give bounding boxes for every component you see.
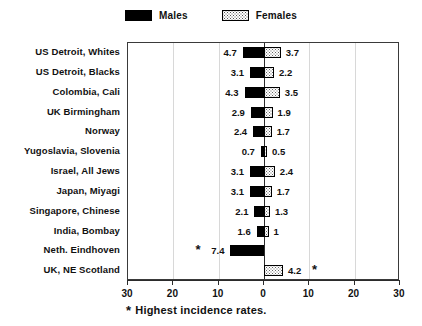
chart-row: 0.70.5 <box>128 142 398 162</box>
bar-males <box>243 47 264 58</box>
x-axis-tick <box>354 280 355 285</box>
chart-row: 4.73.7 <box>128 43 398 63</box>
bar-males <box>250 166 264 177</box>
males-swatch-icon <box>125 10 152 21</box>
bar-value-males: 3.1 <box>231 66 244 79</box>
chart-row: 1.61 <box>128 222 398 242</box>
chart-row: 3.11.7 <box>128 182 398 202</box>
bar-value-males: 4.7 <box>224 46 237 59</box>
chart-row: 2.11.3 <box>128 202 398 222</box>
bar-value-males: 0.7 <box>242 145 255 158</box>
legend-item-females: Females <box>222 10 297 21</box>
bar-value-females: 1.9 <box>278 106 291 119</box>
caption-star-icon: * <box>126 303 131 318</box>
category-label: Colombia, Cali <box>53 82 120 102</box>
category-label-column: US Detroit, WhitesUS Detroit, BlacksColo… <box>0 42 124 280</box>
bar-value-females: 2.4 <box>280 165 293 178</box>
x-axis-tick <box>399 280 400 285</box>
bar-females <box>264 265 283 276</box>
x-axis-tick <box>263 280 264 285</box>
category-label: India, Bombay <box>54 221 120 241</box>
bar-females <box>264 107 273 118</box>
highest-incidence-star-icon: * <box>195 243 200 256</box>
category-label: UK, NE Scotland <box>44 260 120 280</box>
bar-value-males: 4.3 <box>225 86 238 99</box>
legend-item-males: Males <box>125 10 188 21</box>
x-axis-tick <box>308 280 309 285</box>
x-axis-tick-label: 20 <box>159 288 185 299</box>
bar-females <box>264 186 272 197</box>
chart-row: 4.33.5 <box>128 83 398 103</box>
bar-females <box>264 126 272 137</box>
bar-females <box>264 206 270 217</box>
x-axis-tick-label: 20 <box>341 288 367 299</box>
chart-caption: *Highest incidence rates. <box>126 303 267 318</box>
bar-value-females: 4.2 <box>288 264 301 277</box>
bar-value-females: 1.7 <box>277 125 290 138</box>
bar-value-females: 2.2 <box>279 66 292 79</box>
caption-text: Highest incidence rates. <box>135 304 266 316</box>
bar-value-females: 1 <box>274 225 279 238</box>
x-axis-tick-label: 30 <box>386 288 412 299</box>
category-label: Israel, All Jews <box>51 161 120 181</box>
bar-value-males: 2.9 <box>232 106 245 119</box>
x-axis-tick <box>127 280 128 285</box>
bar-females <box>264 67 274 78</box>
x-axis-tick-label: 10 <box>295 288 321 299</box>
category-label: Singapore, Chinese <box>30 201 121 221</box>
bar-females <box>264 146 267 157</box>
chart-row: 4.2* <box>128 261 398 281</box>
bar-value-males: 7.4 <box>211 244 224 257</box>
bar-females <box>264 87 280 98</box>
bar-males <box>250 186 264 197</box>
chart-row: 3.12.2 <box>128 63 398 83</box>
chart-row: 3.12.4 <box>128 162 398 182</box>
bar-males <box>257 226 264 237</box>
chart-legend: Males Females <box>0 6 422 24</box>
bar-females <box>264 166 275 177</box>
bar-males <box>230 245 264 256</box>
category-label: Neth. Eindhoven <box>44 240 120 260</box>
bar-males <box>254 206 264 217</box>
bar-value-males: 2.4 <box>234 125 247 138</box>
bar-value-females: 3.5 <box>285 86 298 99</box>
bar-value-females: 1.3 <box>275 205 288 218</box>
category-label: Yugoslavia, Slovenia <box>24 141 120 161</box>
x-axis-tick-label: 30 <box>114 288 140 299</box>
category-label: US Detroit, Blacks <box>36 62 120 82</box>
bar-males <box>250 67 264 78</box>
chart-row: 2.91.9 <box>128 103 398 123</box>
x-axis-tick-label: 10 <box>205 288 231 299</box>
bar-males <box>251 107 264 118</box>
bar-value-males: 3.1 <box>231 165 244 178</box>
diverging-bar-chart: Males Females US Detroit, WhitesUS Detro… <box>0 0 422 326</box>
category-label: US Detroit, Whites <box>35 42 120 62</box>
category-label: Norway <box>85 121 120 141</box>
bar-females <box>264 47 281 58</box>
plot-area: 4.73.73.12.24.33.52.91.92.41.70.70.53.12… <box>127 42 399 280</box>
bar-value-males: 2.1 <box>235 205 248 218</box>
x-axis-tick <box>172 280 173 285</box>
bar-value-females: 1.7 <box>277 185 290 198</box>
x-axis-tick <box>218 280 219 285</box>
bar-females <box>264 226 269 237</box>
legend-label-females: Females <box>256 10 297 21</box>
x-axis-tick-label: 0 <box>250 288 276 299</box>
category-label: Japan, Miyagi <box>56 181 120 201</box>
legend-label-males: Males <box>159 10 188 21</box>
highest-incidence-star-icon: * <box>312 263 317 276</box>
bar-value-females: 3.7 <box>286 46 299 59</box>
category-label: UK Birmingham <box>47 102 120 122</box>
chart-row: 7.4* <box>128 241 398 261</box>
bar-value-males: 3.1 <box>231 185 244 198</box>
bar-males <box>253 126 264 137</box>
bar-value-males: 1.6 <box>238 225 251 238</box>
chart-row: 2.41.7 <box>128 122 398 142</box>
females-swatch-icon <box>222 10 249 21</box>
bar-value-females: 0.5 <box>272 145 285 158</box>
bar-males <box>245 87 264 98</box>
